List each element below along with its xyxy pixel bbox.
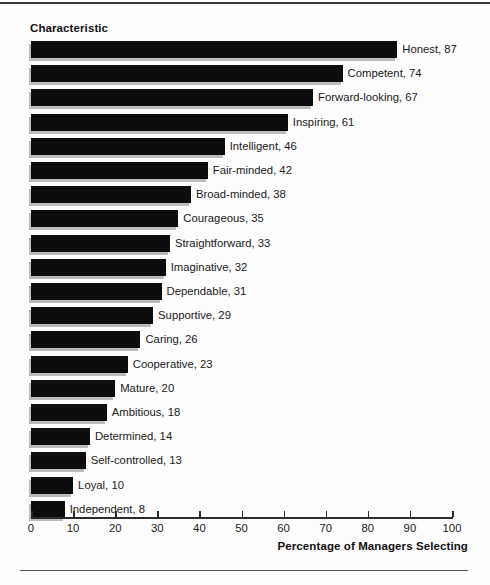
x-axis-line bbox=[31, 517, 453, 519]
bar-value-label: Loyal, 10 bbox=[78, 478, 124, 493]
bar-value-label: Imaginative, 32 bbox=[171, 260, 248, 275]
bar bbox=[31, 283, 162, 300]
x-axis-tick bbox=[157, 511, 159, 517]
bar bbox=[31, 452, 86, 469]
bar-value-label: Ambitious, 18 bbox=[112, 405, 180, 420]
x-axis-tick bbox=[73, 511, 75, 517]
bar bbox=[31, 380, 115, 397]
x-axis-tick bbox=[31, 511, 33, 517]
x-axis-tick bbox=[284, 511, 286, 517]
x-axis-tick-label: 30 bbox=[137, 522, 177, 534]
x-axis-tick bbox=[368, 511, 370, 517]
x-axis-tick-label: 90 bbox=[390, 522, 430, 534]
bar-value-label: Determined, 14 bbox=[95, 429, 172, 444]
bar-value-label: Competent, 74 bbox=[348, 66, 422, 81]
bar-value-label: Dependable, 31 bbox=[167, 284, 247, 299]
bar bbox=[31, 235, 170, 252]
bar-value-label: Courageous, 35 bbox=[183, 211, 263, 226]
bar bbox=[31, 41, 397, 58]
bar-value-label: Caring, 26 bbox=[145, 332, 197, 347]
x-axis-tick-label: 60 bbox=[264, 522, 304, 534]
bar bbox=[31, 428, 90, 445]
bar bbox=[31, 331, 140, 348]
bar-value-label: Fair-minded, 42 bbox=[213, 163, 292, 178]
bar bbox=[31, 477, 73, 494]
bar bbox=[31, 65, 343, 82]
bar bbox=[31, 89, 313, 106]
x-axis-tick bbox=[199, 511, 201, 517]
bar bbox=[31, 210, 178, 227]
bottom-divider-rule bbox=[20, 570, 468, 571]
bar-value-label: Inspiring, 61 bbox=[293, 115, 355, 130]
x-axis-tick-label: 50 bbox=[222, 522, 262, 534]
bar bbox=[31, 307, 153, 324]
chart-page: Characteristic Honest, 87Competent, 74Fo… bbox=[0, 0, 490, 585]
x-axis-tick bbox=[452, 511, 454, 517]
bar bbox=[31, 356, 128, 373]
bar bbox=[31, 186, 191, 203]
plot-area: Honest, 87Competent, 74Forward-looking, … bbox=[0, 0, 490, 585]
x-axis-tick-label: 80 bbox=[348, 522, 388, 534]
x-axis-tick-label: 70 bbox=[306, 522, 346, 534]
bar-value-label: Intelligent, 46 bbox=[230, 139, 297, 154]
x-axis-tick bbox=[410, 511, 412, 517]
x-axis-tick-label: 100 bbox=[432, 522, 472, 534]
bar-value-label: Honest, 87 bbox=[402, 42, 457, 57]
bar-value-label: Independent, 8 bbox=[70, 502, 145, 517]
bar bbox=[31, 162, 208, 179]
bar-value-label: Broad-minded, 38 bbox=[196, 187, 286, 202]
bar-value-label: Self-controlled, 13 bbox=[91, 453, 182, 468]
bar bbox=[31, 138, 225, 155]
x-axis-title: Percentage of Managers Selecting bbox=[278, 540, 468, 552]
bar bbox=[31, 404, 107, 421]
x-axis-tick bbox=[115, 511, 117, 517]
x-axis-tick bbox=[326, 511, 328, 517]
bar bbox=[31, 501, 65, 518]
bar-value-label: Forward-looking, 67 bbox=[318, 90, 418, 105]
bar-value-label: Supportive, 29 bbox=[158, 308, 231, 323]
x-axis-tick-label: 0 bbox=[11, 522, 51, 534]
x-axis-tick-label: 10 bbox=[53, 522, 93, 534]
bar bbox=[31, 114, 288, 131]
bar-value-label: Mature, 20 bbox=[120, 381, 174, 396]
x-axis-tick-label: 40 bbox=[179, 522, 219, 534]
bar bbox=[31, 259, 166, 276]
bar-value-label: Straightforward, 33 bbox=[175, 236, 270, 251]
x-axis-tick-label: 20 bbox=[95, 522, 135, 534]
x-axis-tick bbox=[242, 511, 244, 517]
bar-value-label: Cooperative, 23 bbox=[133, 357, 213, 372]
